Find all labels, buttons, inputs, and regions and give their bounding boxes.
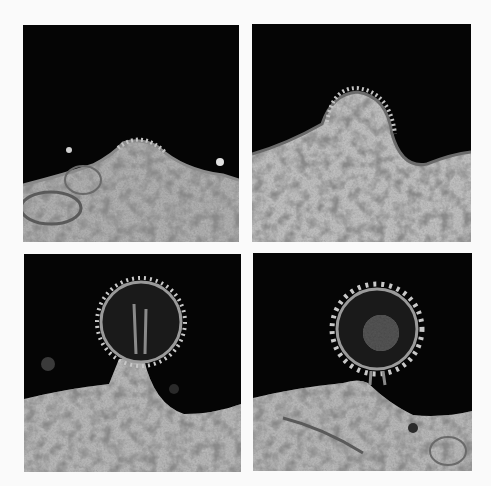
micrograph-image (253, 253, 472, 471)
micrograph-panel-released-virion (253, 253, 472, 471)
micrograph-panel-dome-bud (252, 24, 471, 242)
micrograph-panel-early-bulge (23, 25, 239, 242)
micrograph-panel-stalked-bud (24, 254, 241, 472)
micrograph-image (23, 25, 239, 242)
micrograph-image (24, 254, 241, 472)
micrograph-image (252, 24, 471, 242)
